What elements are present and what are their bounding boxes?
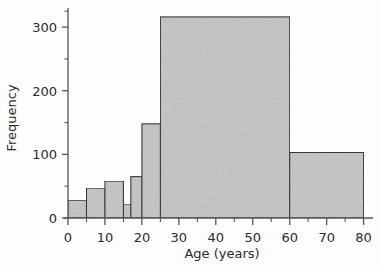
y-tick-label: 100 [32,147,57,162]
histogram-bar [86,188,104,218]
x-tick-label: 20 [134,230,151,245]
histogram-bar [123,204,130,218]
histogram-bar [160,17,289,218]
x-tick-label: 60 [281,230,298,245]
y-tick-label: 300 [32,20,57,35]
x-tick-label: 30 [171,230,188,245]
histogram-bar [290,152,364,218]
y-axis-label: Frequency [4,84,19,151]
x-tick-label: 40 [208,230,225,245]
histogram-bar [68,200,86,218]
histogram-bar [142,124,160,218]
x-tick-label: 70 [318,230,335,245]
x-tick-label: 0 [64,230,72,245]
x-tick-label: 10 [97,230,114,245]
histogram-bar [131,177,142,218]
histogram-figure: 010020030001020304050607080 Age (years) … [0,0,380,270]
histogram-plot: 010020030001020304050607080 Age (years) … [0,0,380,270]
x-tick-label: 80 [355,230,372,245]
y-tick-label: 0 [49,211,57,226]
x-axis-label: Age (years) [184,246,259,261]
histogram-bars [68,17,364,218]
histogram-bar [105,181,123,218]
y-tick-label: 200 [32,84,57,99]
x-tick-label: 50 [244,230,261,245]
